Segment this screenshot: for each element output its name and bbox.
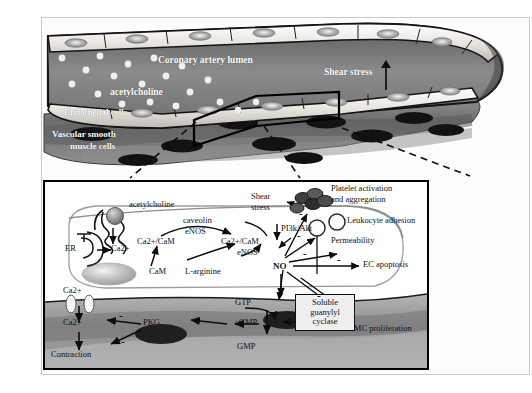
figure-root: Coronary artery lumen acetylcholine Shea… — [0, 0, 532, 393]
label-ca-outside: Ca2+ — [63, 286, 82, 295]
label-gtp: GTP — [235, 298, 251, 307]
label-permeability: Permeability — [331, 236, 374, 245]
label-caveolin: caveolin — [183, 216, 212, 225]
sgc-line3: cyclase — [298, 317, 352, 327]
label-platelet-activation-line2: and aggregation — [331, 195, 386, 204]
label-cam: CaM — [149, 267, 166, 276]
inhibition-mark-apoptosis: - — [337, 254, 341, 266]
soluble-guanylyl-cyclase-box: Soluble guanylyl cyclase — [295, 294, 355, 331]
label-shear-stress-line2: stress — [251, 203, 270, 212]
inhibition-mark-leukocyte: - — [297, 230, 301, 242]
inhibition-mark-vsmc: - — [317, 290, 321, 302]
detail-panel: acetylcholine caveolin eNOS Shear stress… — [43, 180, 429, 370]
label-enos-membrane: eNOS — [185, 227, 206, 236]
label-acetylcholine-panel: acetylcholine — [129, 200, 174, 209]
inhibition-mark-ca: - — [119, 310, 123, 322]
label-ca-er: Ca2+ — [111, 244, 130, 253]
label-pkg: PKG — [143, 318, 160, 327]
label-contraction: Contraction — [51, 350, 91, 359]
label-cgmp: cGMP — [235, 318, 257, 327]
label-ca-inside: Ca2+ — [63, 318, 82, 327]
label-ec-apoptosis: EC apoptosis — [363, 260, 408, 269]
label-leukocyte-adhesion: Leukocyte adhesion — [347, 216, 415, 225]
inhibition-mark-platelet: - — [299, 208, 303, 220]
label-ca-cam-left: Ca2+/CaM — [137, 237, 175, 246]
label-platelet-activation-line1: Platelet activation — [331, 184, 392, 193]
label-no: NO — [273, 262, 287, 271]
label-ca-cam-right: Ca2+/CaM — [221, 237, 259, 246]
label-enos-active: eNOS — [237, 248, 258, 257]
label-shear-stress-line1: Shear — [251, 192, 270, 201]
label-er: ER — [65, 244, 76, 253]
label-gmp: GMP — [237, 342, 255, 351]
inhibition-mark-permeability: - — [303, 248, 307, 260]
label-l-arginine: L-arginine — [185, 267, 221, 276]
inhibition-mark-contraction: - — [121, 336, 125, 348]
